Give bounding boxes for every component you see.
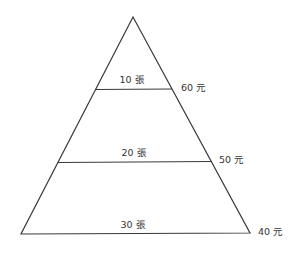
- tier-bottom-price: 40 元: [258, 227, 283, 237]
- tier-middle-quantity: 20 張: [121, 148, 146, 158]
- pyramid-diagram: 10 張 60 元 20 張 50 元 30 張 40 元: [0, 0, 297, 254]
- pyramid-outline: [21, 17, 250, 234]
- tier-bottom-quantity: 30 張: [120, 220, 145, 230]
- tier-divider-top: [95, 89, 172, 90]
- pyramid-shape: [0, 0, 297, 254]
- tier-middle-price: 50 元: [219, 155, 244, 165]
- tier-divider-middle: [58, 162, 212, 163]
- tier-top-price: 60 元: [181, 83, 206, 93]
- tier-top-quantity: 10 張: [119, 75, 144, 85]
